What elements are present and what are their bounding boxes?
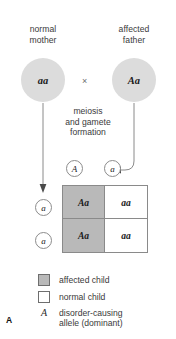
panel-label: A [6, 315, 12, 325]
legend-swatch-affected-icon [38, 274, 50, 286]
legend-allele-description-line1: disorder-causing [59, 308, 123, 318]
legend-item-allele-note: A disorder-causing allele (dominant) [38, 308, 123, 329]
mother-meiosis-arrowhead [40, 184, 47, 193]
punnett-square: Aa aa Aa aa [62, 185, 148, 253]
punnett-cell-r2c1: Aa [63, 219, 105, 252]
legend-swatch-normal-icon [38, 291, 50, 303]
gamete-mother-a-row2: a [35, 232, 52, 249]
connector-arrows [0, 0, 176, 339]
father-meiosis-line [119, 103, 134, 170]
gamete-mother-a-row1: a [35, 199, 52, 216]
gamete-father-A-allele: A [72, 164, 78, 174]
punnett-cell-r1c1: Aa [63, 186, 105, 219]
punnett-cell-r2c2: aa [105, 219, 147, 252]
legend-label-normal: normal child [59, 292, 105, 302]
gamete-father-a: a [104, 160, 121, 177]
legend-allele-description: disorder-causing allele (dominant) [59, 308, 123, 329]
gamete-father-a-allele: a [110, 164, 115, 174]
legend-item-normal: normal child [38, 291, 105, 303]
punnett-cell-r1c2: aa [105, 186, 147, 219]
legend-label-affected: affected child [59, 275, 109, 285]
gamete-mother-a-row2-allele: a [41, 236, 46, 246]
legend-item-affected: affected child [38, 274, 109, 286]
legend-allele-description-line2: allele (dominant) [59, 318, 123, 328]
punnett-square-figure: normal mother affected father aa Aa × me… [0, 0, 176, 339]
gamete-mother-a-row1-allele: a [41, 203, 46, 213]
gamete-father-A: A [66, 160, 83, 177]
legend-allele-symbol: A [38, 308, 50, 318]
